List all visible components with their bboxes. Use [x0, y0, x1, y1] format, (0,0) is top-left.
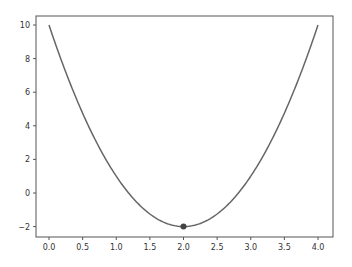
plot-area [49, 25, 318, 230]
x-tick-label: 2.0 [177, 243, 190, 252]
y-tick-label: 0 [25, 189, 30, 198]
x-tick-label: 0.0 [43, 243, 56, 252]
minimum-point-marker [181, 224, 187, 230]
x-axis: 0.00.51.01.52.02.53.03.54.0 [43, 237, 325, 252]
x-tick-label: 4.0 [312, 243, 325, 252]
y-tick-label: 8 [25, 55, 30, 64]
y-tick-label: 4 [25, 122, 30, 131]
y-axis: −20246810 [18, 21, 36, 232]
x-tick-label: 2.5 [211, 243, 224, 252]
y-tick-label: 6 [25, 88, 30, 97]
curve-line [49, 25, 318, 227]
x-tick-label: 1.0 [110, 243, 123, 252]
x-tick-label: 3.5 [278, 243, 291, 252]
y-tick-label: 2 [25, 155, 30, 164]
chart: 0.00.51.01.52.02.53.03.54.0 −20246810 [0, 0, 352, 267]
y-tick-label: −2 [18, 223, 30, 232]
x-tick-label: 1.5 [144, 243, 157, 252]
axes-frame [36, 16, 333, 237]
y-tick-label: 10 [20, 21, 30, 30]
x-tick-label: 0.5 [76, 243, 89, 252]
x-tick-label: 3.0 [244, 243, 257, 252]
